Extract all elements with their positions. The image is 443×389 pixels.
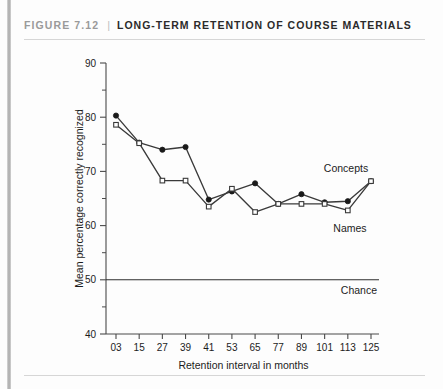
data-point-concepts (299, 192, 304, 197)
data-point-names (206, 204, 211, 209)
data-point-names (299, 202, 304, 207)
series-label-names: Names (333, 222, 366, 234)
y-tick-label: 70 (85, 166, 97, 177)
y-tick-label: 60 (85, 220, 97, 231)
x-tick-label: 27 (157, 342, 169, 353)
x-axis-title: Retention interval in months (178, 359, 308, 371)
series-line-concepts (116, 116, 371, 204)
data-point-names (346, 208, 351, 213)
data-point-concepts (113, 113, 118, 118)
x-tick-label: 39 (180, 342, 192, 353)
data-point-concepts (345, 199, 350, 204)
data-point-names (230, 186, 235, 191)
y-tick-label: 50 (85, 274, 97, 285)
data-point-names (114, 122, 119, 127)
y-axis-title: Mean percentage correctly recognized (73, 109, 85, 288)
data-point-concepts (252, 181, 257, 186)
x-tick-label: 03 (110, 342, 122, 353)
data-point-concepts (183, 144, 188, 149)
x-tick-label: 53 (226, 342, 238, 353)
data-point-names (253, 210, 258, 215)
x-tick-label: 101 (316, 342, 333, 353)
data-point-names (322, 202, 327, 207)
data-point-names (183, 178, 188, 183)
chart-area: 405060708090Mean percentage correctly re… (0, 0, 443, 389)
data-point-names (276, 202, 281, 207)
x-tick-label: 15 (134, 342, 146, 353)
data-point-concepts (160, 147, 165, 152)
data-point-concepts (206, 197, 211, 202)
y-tick-label: 40 (85, 329, 97, 340)
y-tick-label: 90 (85, 58, 97, 69)
data-point-names (160, 178, 165, 183)
series-label-concepts: Concepts (324, 162, 368, 174)
x-tick-label: 65 (250, 342, 262, 353)
x-tick-label: 89 (296, 342, 308, 353)
x-tick-label: 41 (203, 342, 215, 353)
figure-panel: FIGURE 7.12 | LONG-TERM RETENTION OF COU… (0, 0, 443, 389)
line-chart: 405060708090Mean percentage correctly re… (0, 0, 443, 389)
y-tick-label: 80 (85, 112, 97, 123)
x-tick-label: 113 (340, 342, 356, 353)
x-tick-label: 77 (273, 342, 285, 353)
data-point-names (137, 141, 142, 146)
x-tick-label: 125 (363, 342, 380, 353)
data-point-names (369, 179, 374, 184)
chance-label: Chance (341, 284, 377, 296)
